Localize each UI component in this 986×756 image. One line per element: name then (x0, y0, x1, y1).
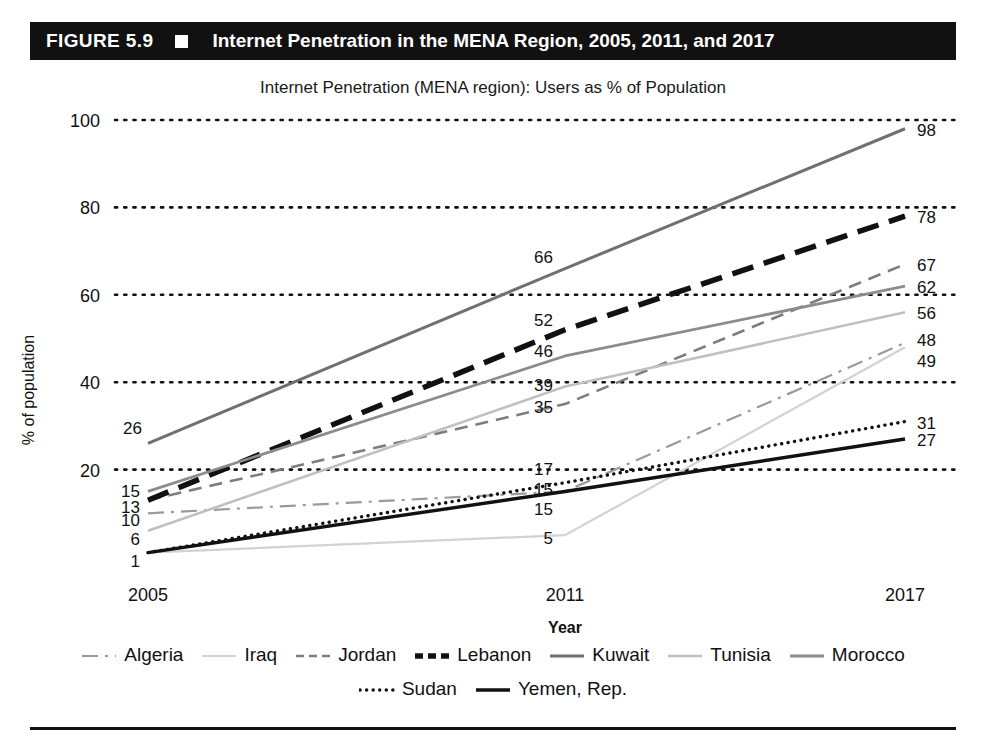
legend-label: Yemen, Rep. (518, 678, 627, 700)
data-point-label: 52 (534, 311, 553, 330)
legend-item-tunisia[interactable]: Tunisia (667, 644, 771, 666)
data-point-label: 49 (917, 352, 936, 371)
legend-item-lebanon[interactable]: Lebanon (414, 644, 531, 666)
series-line-sudan (148, 422, 905, 553)
legend-item-jordan[interactable]: Jordan (295, 644, 396, 666)
data-point-label: 98 (917, 121, 936, 140)
legend-item-morocco[interactable]: Morocco (789, 644, 905, 666)
gray-solid-line-swatch (549, 649, 585, 661)
chart-container: Internet Penetration (MENA region): User… (0, 60, 986, 640)
data-point-label: 17 (534, 460, 553, 479)
y-axis-tick-label: 40 (80, 373, 100, 393)
data-point-label: 10 (121, 511, 140, 530)
dotted-line-swatch (359, 683, 395, 695)
data-point-label: 6 (131, 530, 140, 549)
x-axis-tick-label: 2011 (546, 585, 585, 605)
legend-item-sudan[interactable]: Sudan (359, 678, 457, 700)
data-point-label: 27 (917, 431, 936, 450)
dashed-line-swatch (295, 649, 331, 661)
series-line-kuwait (148, 129, 905, 444)
series-line-yemen-rep (148, 439, 905, 553)
data-point-label: 1 (131, 552, 140, 571)
thick-black-line-swatch (414, 649, 450, 661)
y-axis-tick-label: 100 (70, 111, 100, 131)
legend-label: Jordan (338, 644, 396, 666)
figure-title: Internet Penetration in the MENA Region,… (212, 30, 774, 52)
legend-label: Algeria (124, 644, 183, 666)
line-chart-svg: 20406080100% of population200520112017Ye… (0, 60, 986, 640)
data-point-label: 66 (534, 248, 553, 267)
thick-solid-line-swatch (475, 683, 511, 695)
gray-line-swatch (789, 649, 825, 661)
legend-label: Lebanon (457, 644, 531, 666)
figure-number: FIGURE 5.9 (46, 30, 153, 52)
legend-item-iraq[interactable]: Iraq (201, 644, 277, 666)
data-point-label: 31 (917, 414, 936, 433)
data-point-label: 56 (917, 304, 936, 323)
legend-item-algeria[interactable]: Algeria (81, 644, 183, 666)
bottom-divider (30, 727, 956, 730)
data-point-label: 62 (917, 278, 936, 297)
legend-label: Kuwait (592, 644, 649, 666)
legend-label: Tunisia (710, 644, 771, 666)
legend-label: Iraq (244, 644, 277, 666)
light-solid-line-swatch (201, 649, 237, 661)
legend-row-2: SudanYemen, Rep. (0, 672, 986, 706)
legend-label: Sudan (402, 678, 457, 700)
series-line-iraq (148, 347, 905, 552)
y-axis-title: % of population (20, 335, 37, 445)
data-point-label: 5 (544, 529, 553, 548)
legend-row-1: AlgeriaIraqJordanLebanonKuwaitTunisiaMor… (0, 638, 986, 672)
figure-header-bar: FIGURE 5.9 Internet Penetration in the M… (30, 22, 956, 60)
legend-label: Morocco (832, 644, 905, 666)
legend-item-yemen-rep[interactable]: Yemen, Rep. (475, 678, 627, 700)
y-axis-tick-label: 80 (80, 198, 100, 218)
chart-legend: AlgeriaIraqJordanLebanonKuwaitTunisiaMor… (0, 638, 986, 706)
data-point-label: 35 (534, 398, 553, 417)
legend-item-kuwait[interactable]: Kuwait (549, 644, 649, 666)
data-point-label: 78 (917, 208, 936, 227)
data-point-label: 48 (917, 331, 936, 350)
data-point-label: 15 (534, 500, 553, 519)
y-axis-tick-label: 20 (80, 461, 100, 481)
light-gray-line-swatch (667, 649, 703, 661)
data-point-label: 15 (534, 480, 553, 499)
data-point-label: 39 (534, 376, 553, 395)
x-axis-tick-label: 2005 (128, 585, 168, 605)
data-point-label: 67 (917, 256, 936, 275)
y-axis-tick-label: 60 (80, 286, 100, 306)
square-bullet-icon (175, 35, 188, 48)
x-axis-tick-label: 2017 (885, 585, 925, 605)
x-axis-title: Year (548, 619, 582, 636)
data-point-label: 46 (534, 342, 553, 361)
data-point-label: 26 (123, 419, 142, 438)
series-line-morocco (148, 286, 905, 491)
dash-dot-line-swatch (81, 649, 117, 661)
